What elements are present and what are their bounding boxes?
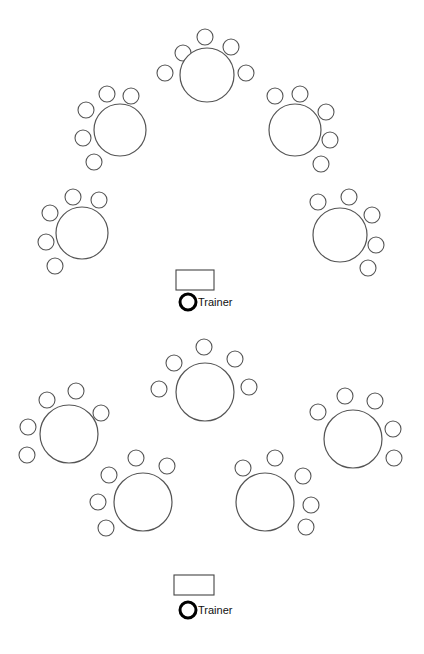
crescent-arc-layout: Trainer: [38, 29, 384, 310]
round-table-group: [310, 189, 384, 276]
trainer-label: Trainer: [198, 296, 233, 308]
seating-diagram: TrainerTrainer: [0, 0, 424, 654]
chair: [310, 194, 326, 210]
round-table: [176, 363, 234, 421]
chair: [90, 494, 106, 510]
chair: [238, 65, 254, 81]
chair: [86, 154, 102, 170]
chair: [292, 86, 308, 102]
chair: [267, 88, 283, 104]
chair: [98, 520, 114, 536]
chair: [91, 192, 107, 208]
chair: [75, 130, 91, 146]
chair: [19, 447, 35, 463]
trainer-position-icon: [180, 602, 196, 618]
chair: [227, 351, 243, 367]
round-table-group: [235, 450, 319, 535]
chair: [360, 260, 376, 276]
round-table-group: [157, 29, 254, 102]
chair: [241, 379, 257, 395]
round-table-group: [19, 383, 109, 463]
round-table: [269, 104, 321, 156]
chair: [93, 405, 109, 421]
chair: [303, 497, 319, 513]
chair: [65, 189, 81, 205]
chair: [47, 258, 63, 274]
chair: [364, 207, 380, 223]
chair: [157, 65, 173, 81]
round-table: [180, 48, 234, 102]
round-table: [114, 473, 172, 531]
chair: [151, 381, 167, 397]
round-table: [56, 207, 108, 259]
chair: [101, 467, 117, 483]
chair: [318, 104, 334, 120]
round-table-group: [38, 189, 108, 274]
trainer-label: Trainer: [198, 604, 233, 616]
chair: [295, 468, 311, 484]
trainer-position-icon: [180, 294, 196, 310]
chair: [99, 86, 115, 102]
chair: [267, 450, 283, 466]
presenter-table: [174, 575, 214, 595]
chair: [123, 88, 139, 104]
round-table: [313, 208, 367, 262]
chair: [368, 237, 384, 253]
chair: [341, 189, 357, 205]
chair: [128, 450, 144, 466]
chair: [42, 205, 58, 221]
chair: [310, 404, 326, 420]
round-table-group: [267, 86, 338, 172]
chair: [197, 29, 213, 45]
round-table-group: [151, 339, 257, 421]
chair: [313, 156, 329, 172]
round-table: [40, 405, 98, 463]
chair: [159, 458, 175, 474]
chair: [223, 39, 239, 55]
round-table-group: [90, 450, 175, 536]
chair: [39, 392, 55, 408]
chair: [385, 421, 401, 437]
presenter-table: [176, 270, 214, 290]
chair: [235, 460, 251, 476]
round-table-group: [75, 86, 146, 170]
round-table: [236, 473, 294, 531]
chair: [322, 132, 338, 148]
round-table: [94, 104, 146, 156]
cabaret-layout: Trainer: [19, 339, 402, 618]
chair: [337, 388, 353, 404]
chair: [386, 450, 402, 466]
chair: [166, 355, 182, 371]
chair: [20, 419, 36, 435]
round-table: [324, 410, 382, 468]
round-table-group: [310, 388, 402, 468]
chair: [38, 234, 54, 250]
chair: [78, 102, 94, 118]
chair: [68, 383, 84, 399]
chair: [298, 519, 314, 535]
chair: [367, 393, 383, 409]
chair: [196, 339, 212, 355]
